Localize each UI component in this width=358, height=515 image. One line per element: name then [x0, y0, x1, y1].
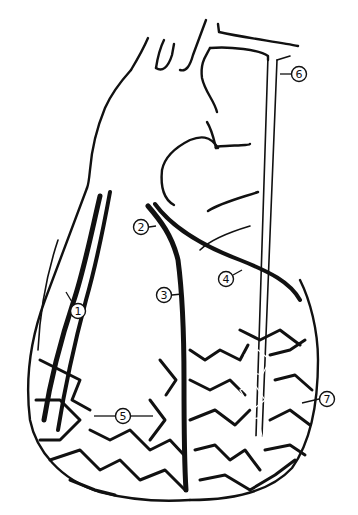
svg-text:1: 1 [75, 305, 82, 318]
label-2: 2 [134, 220, 157, 235]
svg-text:7: 7 [324, 393, 331, 406]
svg-text:5: 5 [120, 410, 127, 423]
label-7: 7 [302, 392, 335, 407]
label-5: 5 [94, 409, 153, 424]
label-4: 4 [219, 270, 243, 287]
svg-text:4: 4 [223, 273, 230, 286]
heart-diagram: 1 2 3 4 5 6 7 [0, 0, 358, 515]
callouts: 1 2 3 4 5 6 7 [66, 67, 335, 424]
aortic-branches [131, 20, 298, 70]
svg-text:3: 3 [161, 289, 168, 302]
label-6: 6 [280, 67, 307, 82]
label-3: 3 [157, 288, 183, 303]
svg-text:6: 6 [296, 68, 303, 81]
svg-text:2: 2 [138, 221, 145, 234]
vascular-network [36, 330, 312, 495]
